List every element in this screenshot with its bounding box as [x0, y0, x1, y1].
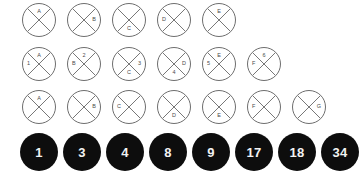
crossed-circle-node[interactable]: D: [157, 3, 191, 37]
crossed-circle-node[interactable]: C: [112, 90, 146, 124]
crossed-circle-node[interactable]: F: [247, 90, 281, 124]
node-number: 1: [35, 146, 42, 159]
node-label-top: A: [36, 8, 42, 16]
crossed-circle-node[interactable]: D: [157, 90, 191, 124]
node-label-top: A: [36, 52, 42, 60]
node-label-left: C: [116, 103, 122, 111]
node-number: 18: [290, 146, 305, 159]
crossed-circle-node[interactable]: 2B: [67, 47, 101, 81]
node-label-top: E: [216, 52, 222, 60]
filled-number-node[interactable]: 8: [149, 133, 187, 171]
node-number: 3: [78, 146, 85, 159]
node-label-left: B: [71, 60, 77, 68]
crossed-circle-node[interactable]: E5: [202, 47, 236, 81]
node-label-top: A: [36, 95, 42, 103]
crossed-circle-node[interactable]: A1: [22, 47, 56, 81]
node-label-left: 1: [26, 60, 31, 68]
crossed-circle-node[interactable]: A: [22, 90, 56, 124]
node-label-bottom: D: [171, 112, 177, 120]
filled-number-node[interactable]: 4: [106, 133, 144, 171]
filled-number-node[interactable]: 9: [192, 133, 230, 171]
filled-number-node[interactable]: 34: [321, 133, 359, 171]
crossed-circle-node[interactable]: B: [67, 90, 101, 124]
node-label-right: D: [181, 60, 187, 68]
crossed-circle-node[interactable]: E: [202, 90, 236, 124]
crossed-circle-node[interactable]: A: [22, 3, 56, 37]
crossed-circle-node[interactable]: 6F: [247, 47, 281, 81]
node-number: 8: [164, 146, 171, 159]
node-label-left: 5: [206, 60, 211, 68]
crossed-circle-node[interactable]: G: [292, 90, 326, 124]
node-label-top: 2: [81, 52, 86, 60]
node-number: 17: [247, 146, 262, 159]
row-3-single-letter-nodes: ABCDEFG: [0, 90, 358, 124]
node-label-right: B: [91, 103, 97, 111]
row-4-filled-number-nodes: 13489171834: [0, 133, 358, 171]
crossed-circle-node[interactable]: C: [112, 3, 146, 37]
crossed-circle-node[interactable]: B: [67, 3, 101, 37]
node-number: 4: [121, 146, 128, 159]
node-label-bottom: 4: [171, 69, 176, 77]
crossed-circle-node[interactable]: D4: [157, 47, 191, 81]
node-label-left: D: [161, 16, 167, 24]
node-label-top: E: [216, 8, 222, 16]
node-label-top: 6: [261, 52, 266, 60]
node-number: 9: [207, 146, 214, 159]
node-number: 34: [333, 146, 348, 159]
node-label-left: F: [251, 60, 256, 68]
row-1-single-letter-nodes: ABCDE: [0, 3, 358, 37]
node-label-right: G: [316, 103, 322, 111]
node-label-right: B: [91, 16, 97, 24]
node-label-bottom: C: [126, 25, 132, 33]
crossed-circle-node[interactable]: E: [202, 3, 236, 37]
node-label-bottom: E: [216, 112, 222, 120]
crossed-circle-node[interactable]: 3C: [112, 47, 146, 81]
filled-number-node[interactable]: 1: [20, 133, 58, 171]
node-label-right: 3: [137, 60, 142, 68]
node-label-left: F: [251, 103, 256, 111]
filled-number-node[interactable]: 3: [63, 133, 101, 171]
row-2-paired-label-nodes: A12B3CD4E56F: [0, 47, 358, 81]
filled-number-node[interactable]: 18: [278, 133, 316, 171]
filled-number-node[interactable]: 17: [235, 133, 273, 171]
node-label-bottom: C: [126, 69, 132, 77]
